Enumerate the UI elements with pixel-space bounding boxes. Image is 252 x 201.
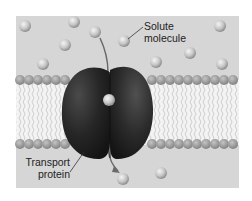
solute-molecule-label: Solute molecule <box>144 20 186 44</box>
transport-protein-label: Transport protein <box>20 156 70 180</box>
solute-in-channel <box>103 94 115 106</box>
transport-protein <box>62 67 153 159</box>
